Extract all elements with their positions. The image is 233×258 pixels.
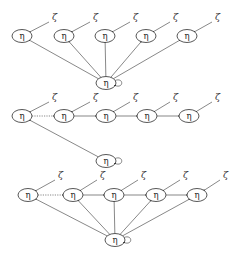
eta-node: η (179, 110, 199, 123)
zeta-input-edge (196, 102, 212, 112)
hub-edge (36, 199, 107, 236)
eta-node: η (12, 30, 32, 43)
eta-node: η (18, 189, 38, 202)
diagram-hub-to-all: ζζζζζηηηηηη (12, 11, 221, 90)
node-label: η (102, 31, 107, 41)
zeta-input-edge (195, 22, 212, 32)
zeta-input-edge (113, 22, 130, 32)
eta-hub-node: η (96, 77, 116, 90)
hub-edge (111, 42, 141, 78)
zeta-input-edge (30, 22, 49, 32)
zeta-input-edge (30, 102, 49, 112)
zeta-input-edge (154, 102, 170, 112)
node-label: η (153, 190, 158, 200)
zeta-label: ζ (223, 169, 229, 180)
node-label: η (19, 31, 24, 41)
zeta-input-edge (153, 22, 170, 32)
hub-edge (105, 42, 106, 76)
eta-hub-node: η (96, 155, 116, 168)
node-label: η (103, 78, 108, 88)
zeta-input-edge (72, 22, 90, 32)
zeta-label: ζ (133, 11, 139, 22)
node-label: η (184, 31, 189, 41)
node-label: η (103, 111, 108, 121)
eta-node: η (63, 189, 83, 202)
zeta-input-edge (204, 180, 220, 190)
zeta-input-edge (121, 180, 138, 190)
zeta-input-edge (113, 102, 130, 112)
node-label: η (61, 31, 66, 41)
zeta-input-edge (36, 180, 55, 191)
zeta-input-edge (163, 180, 180, 190)
zeta-input-edge (72, 102, 90, 112)
eta-node: η (12, 110, 32, 123)
zeta-label: ζ (133, 91, 139, 102)
hub-edge (69, 42, 101, 78)
hub-edge (30, 120, 99, 157)
zeta-label: ζ (93, 11, 99, 22)
eta-node: η (95, 30, 115, 43)
node-label: η (143, 31, 148, 41)
zeta-label: ζ (183, 169, 189, 180)
zeta-label: ζ (93, 91, 99, 102)
node-label: η (194, 190, 199, 200)
node-label: η (111, 190, 116, 200)
zeta-input-edge (80, 180, 97, 190)
hub-edge (113, 40, 179, 78)
eta-node: η (96, 110, 116, 123)
eta-hub-node: η (105, 234, 125, 247)
eta-node: η (137, 110, 157, 123)
hub-edge (30, 40, 99, 79)
eta-node: η (54, 110, 74, 123)
zeta-label: ζ (100, 169, 106, 180)
node-label: η (186, 111, 191, 121)
node-label: η (103, 156, 108, 166)
zeta-label: ζ (141, 169, 147, 180)
zeta-label: ζ (173, 11, 179, 22)
hub-edge (123, 199, 190, 236)
node-label: η (70, 190, 75, 200)
node-label: η (25, 190, 30, 200)
zeta-label: ζ (52, 91, 58, 102)
node-label: η (19, 111, 24, 121)
eta-node: η (104, 189, 124, 202)
eta-node: η (136, 30, 156, 43)
eta-node: η (177, 30, 197, 43)
eta-node: η (54, 30, 74, 43)
zeta-label: ζ (52, 11, 58, 22)
node-label: η (61, 111, 66, 121)
diagram-chain-hub-all: ζζζζζηηηηηη (18, 169, 229, 247)
diagram-canvas: ζζζζζηηηηηηζζζζζηηηηηηζζζζζηηηηηη (0, 0, 233, 258)
zeta-label: ζ (58, 169, 64, 180)
eta-node: η (187, 189, 207, 202)
node-label: η (112, 235, 117, 245)
eta-node: η (146, 189, 166, 202)
diagram-chain-hub-first: ζζζζζηηηηηη (12, 91, 221, 168)
hub-edge (114, 201, 115, 233)
node-label: η (144, 111, 149, 121)
hub-edge (120, 201, 151, 235)
zeta-label: ζ (215, 11, 221, 22)
zeta-label: ζ (215, 91, 221, 102)
zeta-label: ζ (173, 91, 179, 102)
